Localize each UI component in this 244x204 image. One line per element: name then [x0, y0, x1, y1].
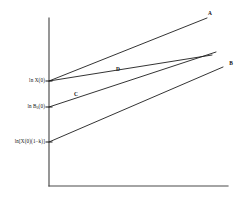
curve-label-b: B	[229, 61, 233, 66]
y-tick-label-ln-b0-text: ln B0(0)	[27, 103, 45, 109]
curve-label-a: A	[208, 11, 212, 16]
figure-container: ln X(0) ln B0(0) ln[X(0)(1−k)] A B C D	[0, 0, 244, 204]
y-tick-label-ln-x0: ln X(0)	[29, 78, 45, 83]
data-line-c	[49, 52, 216, 107]
y-tick-label-ln-x0-text: ln X(0)	[29, 77, 45, 83]
curve-label-d: D	[116, 67, 120, 72]
y-tick-label-ln-x0-1-k-text: ln[X(0)(1−k)]	[15, 138, 45, 144]
data-lines-group	[49, 18, 223, 142]
y-tick-label-ln-b0: ln B0(0)	[27, 104, 45, 110]
data-line-a	[49, 18, 207, 81]
plot-canvas	[0, 0, 244, 204]
curve-label-c: C	[74, 92, 78, 97]
y-tick-label-ln-x0-1-k: ln[X(0)(1−k)]	[15, 139, 45, 144]
data-line-d	[49, 55, 212, 81]
axes-group	[49, 18, 228, 186]
